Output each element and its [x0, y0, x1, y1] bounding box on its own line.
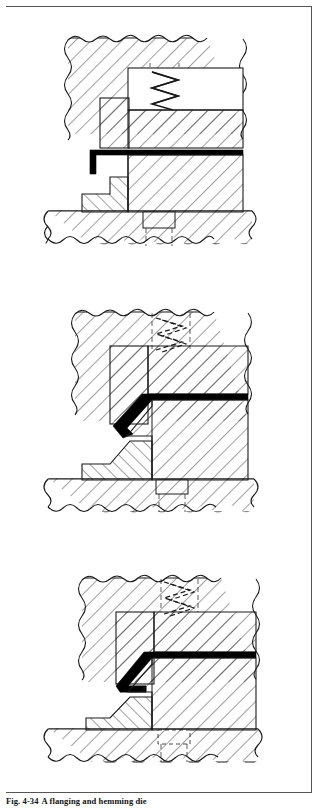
- die-step: [82, 441, 152, 480]
- frame-border-bottom: [6, 792, 312, 793]
- die-diagram-stage-1: [0, 22, 322, 254]
- figure-caption-text: A flanging and hemming die: [42, 796, 147, 806]
- flanging-steel: [148, 346, 248, 394]
- figure-caption: Fig. 4-34A flanging and hemming die: [6, 796, 306, 806]
- stage-2-drawing: [0, 286, 322, 514]
- stage-3-drawing: [0, 552, 322, 776]
- die-diagram-stage-2: [0, 286, 322, 514]
- figure-caption-number: Fig. 4-34: [6, 796, 39, 806]
- die-step: [82, 177, 128, 212]
- pad-nose: [100, 98, 129, 148]
- die-shoe: [44, 210, 256, 244]
- die-step: [86, 697, 152, 730]
- lower-die-block: [128, 155, 243, 212]
- flanging-steel: [128, 110, 243, 148]
- die-shoe: [44, 728, 262, 762]
- figure-stack: [0, 0, 322, 790]
- stage-1-drawing: [0, 22, 322, 254]
- die-shoe: [44, 478, 258, 512]
- die-diagram-stage-3: [0, 552, 322, 776]
- hemming-steel: [154, 612, 256, 652]
- pressure-pad: [128, 68, 243, 110]
